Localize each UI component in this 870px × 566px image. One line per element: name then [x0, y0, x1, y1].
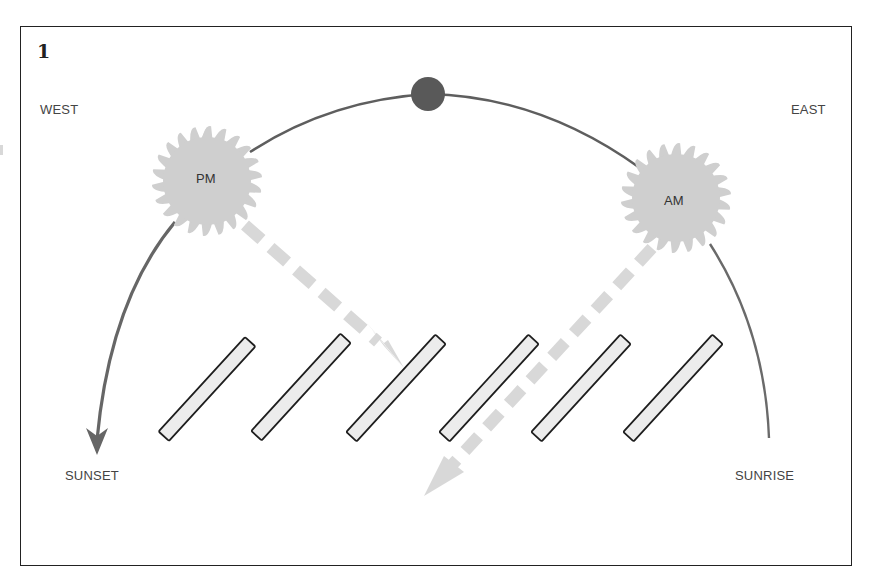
pm-sun-label: PM: [196, 171, 216, 186]
am-sun-label: AM: [664, 193, 684, 208]
sunset-label: SUNSET: [65, 468, 119, 483]
east-label: EAST: [791, 102, 826, 117]
sunrise-label: SUNRISE: [735, 468, 794, 483]
west-label: WEST: [40, 102, 78, 117]
